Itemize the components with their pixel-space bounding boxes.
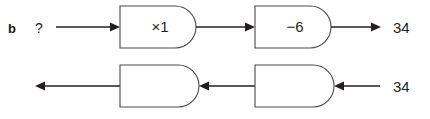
item-letter: b xyxy=(8,21,16,36)
top-row-arrow-output xyxy=(331,23,381,32)
bottom-row-arrow-middle xyxy=(199,82,255,91)
top-row-arrow-input xyxy=(56,23,120,32)
top-row-machine-2-label: −6 xyxy=(286,18,303,35)
top-row-output-value: 34 xyxy=(393,19,410,36)
bottom-row-input-value: 34 xyxy=(393,78,410,95)
top-row-machine-1: ×1 xyxy=(120,6,196,48)
top-row-machine-2: −6 xyxy=(255,6,331,48)
top-row-machine-1-label: ×1 xyxy=(151,18,168,35)
bottom-row-machine-1 xyxy=(120,65,199,107)
function-machine-diagram: b ? ×1 −6 34 xyxy=(0,0,430,119)
bottom-row-arrow-input xyxy=(334,82,380,91)
top-row-arrow-middle xyxy=(196,23,255,32)
bottom-row-arrow-output xyxy=(35,82,120,91)
function-machine-worksheet-item: b ? ×1 −6 34 xyxy=(0,0,430,119)
bottom-row-machine-2 xyxy=(255,65,334,107)
top-row-input-value: ? xyxy=(35,20,43,36)
